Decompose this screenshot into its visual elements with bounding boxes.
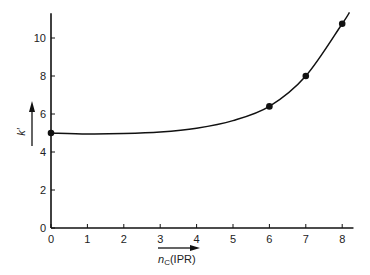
x-tick-label: 1 <box>84 233 90 245</box>
data-point <box>48 130 55 137</box>
x-axis-label: nC(IPR) <box>158 253 196 267</box>
data-points <box>48 20 346 136</box>
y-axis-label: k′ <box>15 127 27 136</box>
x-tick-label: 5 <box>230 233 236 245</box>
x-tick-label: 0 <box>48 233 54 245</box>
y-tick-label: 0 <box>40 222 46 234</box>
x-tick-label: 7 <box>303 233 309 245</box>
data-point <box>339 20 346 27</box>
data-point <box>266 103 273 110</box>
x-tick-label: 2 <box>121 233 127 245</box>
x-tick-label: 4 <box>194 233 200 245</box>
y-tick-label: 10 <box>34 32 46 44</box>
x-tick-label: 3 <box>157 233 163 245</box>
y-tick-label: 6 <box>40 108 46 120</box>
chart: 0123456780246810 nC(IPR)k′ <box>0 0 370 275</box>
y-axis-arrow-icon <box>29 101 35 112</box>
x-axis-arrow-icon <box>190 245 200 251</box>
x-tick-label: 6 <box>266 233 272 245</box>
y-tick-label: 8 <box>40 70 46 82</box>
y-tick-label: 4 <box>40 146 46 158</box>
x-tick-label: 8 <box>339 233 345 245</box>
y-tick-label: 2 <box>40 184 46 196</box>
data-point <box>303 73 310 80</box>
